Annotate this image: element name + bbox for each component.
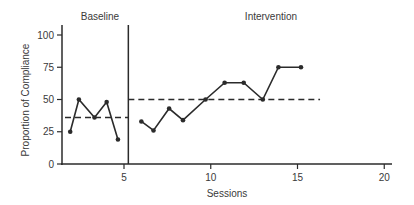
data-point bbox=[241, 80, 246, 85]
x-tick-label: 20 bbox=[379, 172, 391, 183]
data-point bbox=[77, 97, 82, 102]
data-point bbox=[261, 97, 266, 102]
x-tick-label: 10 bbox=[205, 172, 217, 183]
data-point bbox=[167, 106, 172, 111]
data-point bbox=[104, 100, 109, 105]
x-tick-label: 15 bbox=[292, 172, 304, 183]
data-point bbox=[116, 137, 121, 142]
chart-canvas: 02550751005101520 Baseline Intervention … bbox=[0, 0, 414, 205]
data-point bbox=[181, 118, 186, 123]
mean-lines bbox=[65, 100, 320, 118]
data-point bbox=[299, 65, 304, 70]
phase-label-baseline: Baseline bbox=[81, 11, 120, 22]
axes: 02550751005101520 bbox=[37, 25, 392, 183]
data-point bbox=[92, 115, 97, 120]
x-axis-label: Sessions bbox=[207, 188, 248, 199]
data-point bbox=[68, 129, 73, 134]
y-tick-label: 100 bbox=[37, 30, 54, 41]
y-tick-label: 0 bbox=[48, 159, 54, 170]
x-tick-label: 5 bbox=[121, 172, 127, 183]
data-series bbox=[68, 65, 303, 142]
y-axis-label: Proportion of Compliance bbox=[20, 43, 31, 156]
data-point bbox=[222, 80, 227, 85]
data-point bbox=[276, 65, 281, 70]
phase-label-intervention: Intervention bbox=[245, 11, 297, 22]
data-point bbox=[151, 128, 156, 133]
data-point bbox=[139, 119, 144, 124]
y-tick-label: 75 bbox=[43, 62, 55, 73]
y-tick-label: 50 bbox=[43, 94, 55, 105]
y-tick-label: 25 bbox=[43, 126, 55, 137]
data-point bbox=[203, 97, 208, 102]
